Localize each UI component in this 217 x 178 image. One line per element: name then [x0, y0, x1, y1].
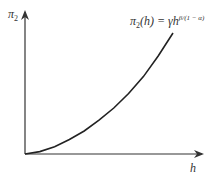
curve-equation: π2(h) = γhβ/(1 − α)	[130, 15, 204, 30]
curve	[25, 33, 173, 154]
y-axis-label: π2	[8, 8, 18, 23]
x-axis-label: h	[190, 162, 196, 174]
